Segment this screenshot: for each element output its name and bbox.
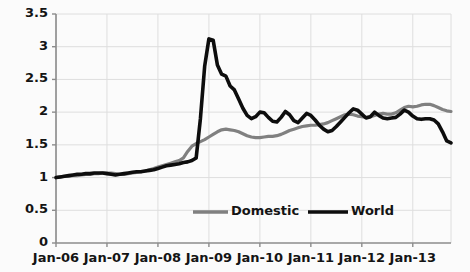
series-line-world [56,39,451,178]
legend-label-world: World [351,203,394,218]
y-axis-tick-label: 2.5 [25,70,48,85]
series-line-domestic [56,104,451,177]
y-axis-tick-label: 0 [39,234,48,249]
chart-plot-svg [0,0,470,272]
legend-label-domestic: Domestic [231,203,299,218]
chart-container: 00.511.522.533.5 Jan-06Jan-07Jan-08Jan-0… [0,0,470,272]
data-series [56,39,451,178]
y-axis-tick-label: 1.5 [25,136,48,151]
y-axis-tick-label: 3.5 [25,5,48,20]
y-axis-tick-label: 1 [39,169,48,184]
y-axis-tick-label: 0.5 [25,201,48,216]
x-axis-tick-label: Jan-13 [383,250,443,265]
y-axis-tick-label: 3 [39,38,48,53]
y-axis-tick-label: 2 [39,103,48,118]
